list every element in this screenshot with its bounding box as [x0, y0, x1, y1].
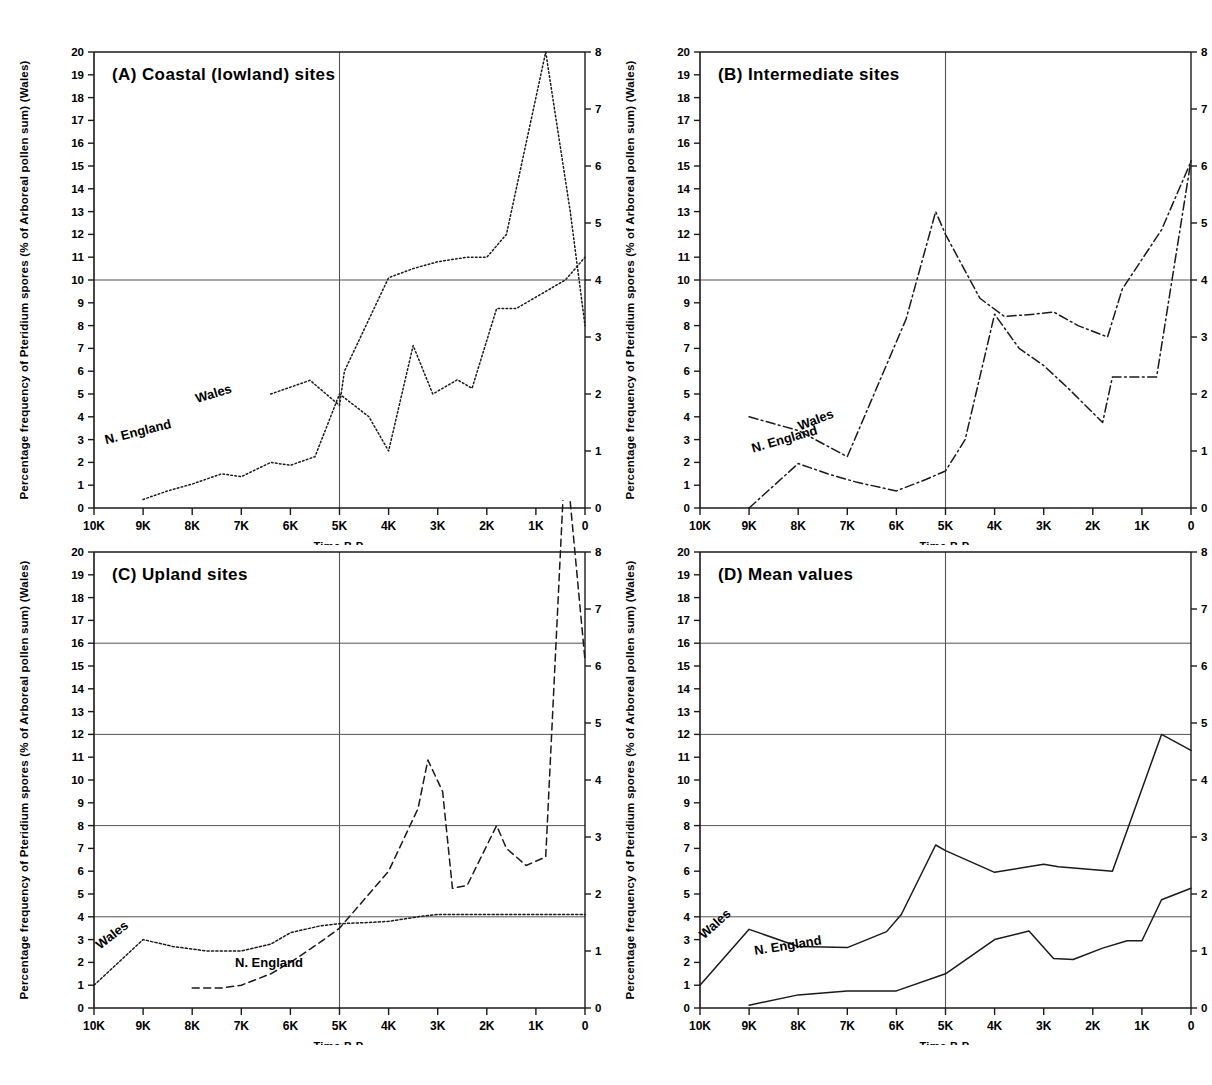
left-tick-label: 7 — [78, 342, 84, 354]
x-tick-label: 5K — [332, 1019, 348, 1033]
right-tick-label: 8 — [595, 546, 602, 558]
series-label-n-england: N. England — [235, 955, 303, 970]
x-tick-label: 2K — [479, 1019, 495, 1033]
right-tick-label: 7 — [595, 103, 601, 115]
series-label-wales: Wales — [193, 381, 233, 406]
right-tick-label: 7 — [1201, 103, 1207, 115]
left-tick-label: 1 — [78, 979, 85, 991]
right-tick-label: 5 — [1201, 717, 1208, 729]
left-tick-label: 17 — [71, 614, 84, 626]
x-tick-label: 7K — [234, 1019, 250, 1033]
left-tick-label: 15 — [677, 660, 690, 672]
left-tick-label: 18 — [677, 592, 690, 604]
left-tick-label: 16 — [71, 137, 84, 149]
left-tick-label: 8 — [78, 320, 85, 332]
left-tick-label: 6 — [684, 365, 690, 377]
left-tick-label: 4 — [684, 411, 691, 423]
series-line-wales — [271, 52, 585, 405]
right-tick-label: 6 — [595, 160, 601, 172]
x-tick-label: 9K — [135, 1019, 151, 1033]
left-tick-label: 20 — [71, 546, 84, 558]
panel-title: (D) Mean values — [718, 565, 853, 584]
right-tick-label: 7 — [1201, 603, 1207, 615]
left-tick-label: 10 — [71, 774, 84, 786]
left-tick-label: 4 — [78, 411, 85, 423]
left-tick-label: 3 — [684, 934, 690, 946]
left-axis: 01234567891011121314151617181920 — [677, 46, 700, 514]
left-tick-label: 8 — [684, 320, 691, 332]
x-tick-label: 5K — [938, 1019, 954, 1033]
left-tick-label: 9 — [78, 797, 84, 809]
chart-panel-b: 0123456789101112131415161718192001234567… — [606, 0, 1212, 545]
right-tick-label: 5 — [1201, 217, 1208, 229]
left-tick-label: 15 — [71, 160, 84, 172]
x-tick-label: 8K — [185, 1019, 201, 1033]
left-tick-label: 12 — [677, 728, 690, 740]
right-tick-label: 1 — [1201, 945, 1208, 957]
left-tick-label: 2 — [684, 456, 690, 468]
left-tick-label: 12 — [71, 228, 84, 240]
left-tick-label: 1 — [684, 979, 691, 991]
left-tick-label: 11 — [678, 751, 691, 763]
left-tick-label: 0 — [684, 1002, 690, 1014]
left-tick-label: 1 — [684, 479, 691, 491]
right-tick-label: 3 — [1201, 831, 1207, 843]
right-axis: 012345678 — [585, 46, 602, 514]
series-label-wales: Wales — [696, 906, 734, 942]
right-tick-label: 3 — [595, 831, 601, 843]
left-tick-label: 18 — [71, 592, 84, 604]
chart-panel-d: 0123456789101112131415161718192001234567… — [606, 500, 1212, 1045]
left-tick-label: 5 — [684, 888, 691, 900]
left-tick-label: 6 — [78, 365, 84, 377]
left-tick-label: 16 — [677, 137, 690, 149]
left-tick-label: 9 — [684, 297, 690, 309]
left-tick-label: 4 — [684, 911, 691, 923]
left-tick-label: 17 — [677, 114, 690, 126]
left-tick-label: 18 — [677, 92, 690, 104]
left-tick-label: 12 — [71, 728, 84, 740]
x-tick-label: 10K — [83, 1019, 105, 1033]
right-tick-label: 1 — [595, 945, 602, 957]
left-tick-label: 4 — [78, 911, 85, 923]
left-tick-label: 19 — [71, 69, 84, 81]
left-tick-label: 18 — [71, 92, 84, 104]
left-tick-label: 19 — [71, 569, 84, 581]
left-tick-label: 0 — [78, 1002, 84, 1014]
left-tick-label: 8 — [684, 820, 691, 832]
right-tick-label: 4 — [1201, 274, 1208, 286]
right-tick-label: 8 — [595, 46, 602, 58]
right-axis: 012345678 — [585, 546, 602, 1014]
right-tick-label: 5 — [595, 217, 602, 229]
x-tick-label: 0 — [582, 1019, 589, 1033]
right-tick-label: 6 — [1201, 660, 1207, 672]
left-axis: 01234567891011121314151617181920 — [677, 546, 700, 1014]
chart-panel-a: 0123456789101112131415161718192001234567… — [0, 0, 606, 545]
right-tick-label: 2 — [595, 888, 601, 900]
left-axis-title: Percentage frequency of Pteridium spores… — [624, 60, 636, 499]
right-tick-label: 1 — [595, 445, 602, 457]
panel-title: (B) Intermediate sites — [718, 65, 900, 84]
left-axis-title: Percentage frequency of Pteridium spores… — [18, 60, 30, 499]
left-tick-label: 19 — [677, 69, 690, 81]
panel-title: (A) Coastal (lowland) sites — [112, 65, 335, 84]
series-label-n-england: N. England — [103, 416, 173, 447]
left-tick-label: 7 — [684, 842, 690, 854]
x-tick-label: 10K — [689, 1019, 711, 1033]
right-tick-label: 6 — [1201, 160, 1207, 172]
left-tick-label: 11 — [72, 751, 85, 763]
x-axis: 10K9K8K7K6K5K4K3K2K1K0 — [83, 1008, 589, 1033]
right-tick-label: 4 — [1201, 774, 1208, 786]
x-tick-label: 0 — [1188, 1019, 1195, 1033]
left-tick-label: 13 — [71, 206, 84, 218]
left-tick-label: 13 — [677, 206, 690, 218]
right-tick-label: 2 — [595, 388, 601, 400]
left-tick-label: 20 — [71, 46, 84, 58]
x-axis: 10K9K8K7K6K5K4K3K2K1K0 — [689, 1008, 1195, 1033]
left-tick-label: 9 — [684, 797, 690, 809]
x-axis-title: Time B.P. — [313, 1040, 365, 1045]
right-axis: 012345678 — [1191, 46, 1208, 514]
right-tick-label: 2 — [1201, 888, 1207, 900]
left-tick-label: 5 — [684, 388, 691, 400]
left-tick-label: 7 — [684, 342, 690, 354]
left-tick-label: 6 — [684, 865, 690, 877]
